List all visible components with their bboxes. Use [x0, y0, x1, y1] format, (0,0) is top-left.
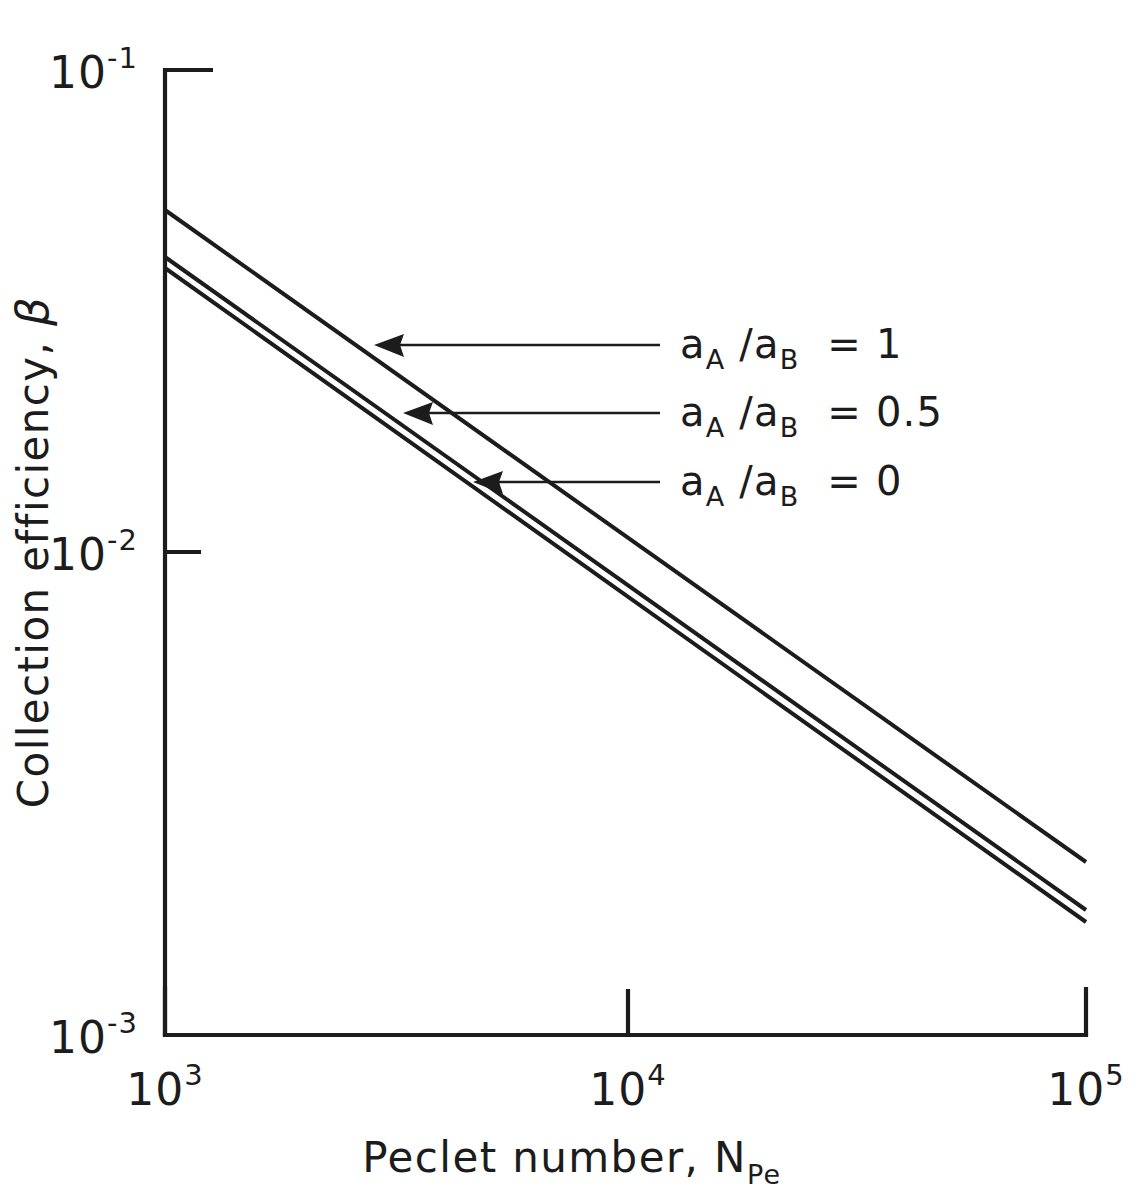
annotation-ratio-1: aA /aB = 1 [680, 321, 903, 375]
curve-ratio-1 [165, 210, 1086, 862]
y-tick-label-1e-1: 10-1 [49, 41, 138, 98]
arrow-head-icon [403, 402, 433, 425]
curve-ratio-0 [165, 268, 1086, 922]
x-tick-labels: 103 104 105 [126, 1058, 1124, 1115]
x-axis-title: Peclet number, NPe [362, 1133, 781, 1190]
y-tick-labels: 10-1 10-2 10-3 [49, 41, 138, 1063]
annotation-labels: aA /aB = 1 aA /aB = 0.5 aA /aB = 0 [680, 321, 943, 512]
arrow-to-curve-ratio-1 [374, 334, 660, 357]
x-tick-marks [165, 987, 1086, 1035]
annotation-ratio-0p5: aA /aB = 0.5 [680, 389, 943, 443]
axis-group [165, 70, 1086, 1035]
chart-svg: 10-1 10-2 10-3 103 104 105 Peclet number… [0, 0, 1144, 1200]
annotation-arrows [374, 334, 660, 494]
figure-canvas: 10-1 10-2 10-3 103 104 105 Peclet number… [0, 0, 1144, 1200]
arrow-head-icon [374, 334, 404, 357]
data-curves [165, 210, 1086, 922]
x-tick-label-1e3: 103 [126, 1058, 203, 1115]
y-tick-label-1e-2: 10-2 [49, 523, 138, 580]
curve-ratio-0p5 [165, 257, 1086, 910]
x-tick-label-1e5: 105 [1047, 1058, 1124, 1115]
x-tick-label-1e4: 104 [589, 1058, 666, 1115]
y-axis-title: Collection efficiency, β [6, 296, 59, 808]
annotation-ratio-0: aA /aB = 0 [680, 458, 903, 512]
arrow-to-curve-ratio-0 [473, 471, 660, 494]
y-tick-label-1e-3: 10-3 [49, 1006, 138, 1063]
